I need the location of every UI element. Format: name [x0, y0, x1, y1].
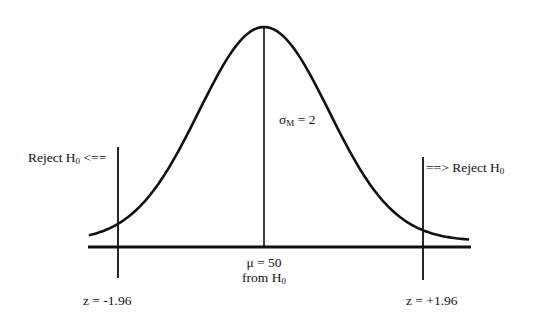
- mean-value: μ = 50: [224, 255, 304, 270]
- mean-source-text: from H: [242, 270, 281, 285]
- mean-label: μ = 50 from H0: [224, 255, 304, 285]
- reject-h0-left-label: Reject H0 <==: [28, 150, 106, 165]
- sigma-label: σM = 2: [279, 112, 315, 127]
- right-arrow-icon: ==>: [426, 160, 452, 175]
- sigma-value: = 2: [294, 112, 315, 127]
- bell-curve: [90, 27, 468, 239]
- mean-source-subscript: 0: [281, 276, 286, 286]
- left-arrow-icon: <==: [80, 150, 106, 165]
- z-right-label: z = +1.96: [406, 293, 458, 308]
- reject-right-subscript: 0: [500, 166, 505, 176]
- mean-source: from H0: [224, 270, 304, 285]
- reject-left-text: Reject H: [28, 150, 76, 165]
- reject-right-text: Reject H: [452, 160, 500, 175]
- z-left-label: z = -1.96: [83, 293, 131, 308]
- reject-h0-right-label: ==> Reject H0: [426, 160, 504, 175]
